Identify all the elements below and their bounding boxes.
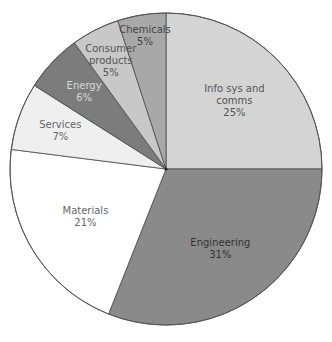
pie-chart: Info sys andcomms25%Engineering31%Materi… [0, 0, 332, 342]
pie-center-dot [165, 168, 168, 171]
pie-slices [10, 13, 322, 325]
